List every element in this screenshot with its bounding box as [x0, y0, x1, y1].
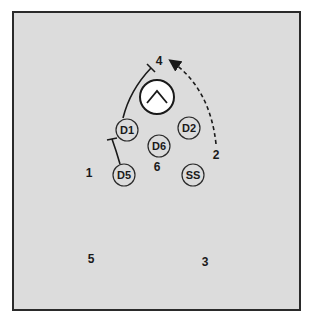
attacker-1: 1 — [86, 166, 93, 180]
attacker-6: 6 — [154, 160, 161, 174]
play-diagram: D1 D2 D6 D5 SS 1 2 3 4 5 6 — [0, 0, 310, 321]
defender-label: D1 — [120, 124, 134, 136]
defender-d6: D6 — [148, 135, 170, 157]
defender-d5: D5 — [113, 164, 135, 186]
defender-ss: SS — [182, 164, 204, 186]
ball-marker — [140, 80, 174, 114]
attacker-4: 4 — [156, 54, 163, 68]
defender-label: D6 — [152, 140, 166, 152]
d5-block-path — [112, 139, 120, 164]
defender-d1: D1 — [116, 119, 138, 141]
defender-label: D2 — [182, 122, 196, 134]
defender-label: SS — [186, 169, 201, 181]
attacker-3: 3 — [202, 255, 209, 269]
attacker-2: 2 — [213, 148, 220, 162]
d5-block-t-icon — [107, 138, 117, 140]
defender-d2: D2 — [178, 117, 200, 139]
defender-label: D5 — [117, 169, 131, 181]
attacker-5: 5 — [88, 252, 95, 266]
